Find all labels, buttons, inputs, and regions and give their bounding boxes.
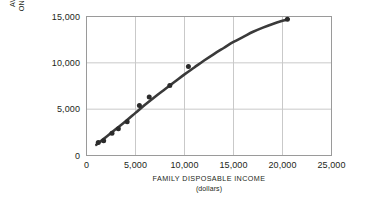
plot-frame — [87, 17, 332, 156]
x-axis-label-main: FAMILY DISPOSABLE INCOME — [86, 174, 332, 184]
data-point — [147, 95, 152, 100]
fitted-curve — [96, 19, 288, 145]
x-tick-label: 15,000 — [219, 160, 247, 170]
x-tick-label: 25,000 — [317, 160, 345, 170]
x-axis-label: FAMILY DISPOSABLE INCOME (dollars) — [86, 174, 332, 194]
y-axis-label-line2: ON CONSUMPTION (dollars) — [17, 0, 26, 32]
data-point — [116, 126, 121, 131]
y-tick-label: 10,000 — [14, 58, 80, 68]
data-point — [96, 140, 101, 145]
y-tick-label: 5,000 — [14, 104, 80, 114]
data-point — [167, 83, 172, 88]
x-tick-label: 5,000 — [124, 160, 147, 170]
data-point — [285, 17, 290, 22]
y-axis-label: AVERAGE EXPENDITURE ON CONSUMPTION (doll… — [8, 0, 26, 32]
consumption-income-chart: 05,00010,00015,000 05,00010,00015,00020,… — [0, 0, 371, 206]
data-point — [137, 103, 142, 108]
x-tick-label: 20,000 — [268, 160, 296, 170]
data-point — [109, 131, 114, 136]
x-tick-label: 10,000 — [170, 160, 198, 170]
data-point — [125, 119, 130, 124]
x-tick-label: 0 — [84, 160, 89, 170]
data-point — [186, 64, 191, 69]
y-tick-label: 0 — [14, 151, 80, 161]
data-point — [101, 138, 106, 143]
data-points — [96, 17, 290, 145]
x-axis-label-units: (dollars) — [86, 184, 332, 194]
y-axis-label-line1: AVERAGE EXPENDITURE — [8, 0, 17, 32]
gridlines — [87, 17, 332, 156]
